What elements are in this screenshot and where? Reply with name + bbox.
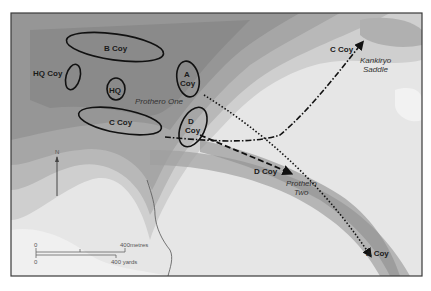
a-coy-label-2: Coy	[180, 79, 196, 88]
b-coy-label: B Coy	[104, 44, 128, 53]
c-coy-label: C Coy	[109, 118, 133, 127]
kankiryo-label-1: Kankiryo	[360, 56, 392, 65]
hq-coy-label: HQ Coy	[33, 69, 63, 78]
c-coy-arrow-label: C Coy	[330, 45, 354, 54]
svg-text:400metres: 400metres	[120, 242, 148, 248]
a-coy-label-1: A	[184, 70, 190, 79]
kankiryo-label-2: Saddle	[363, 65, 388, 74]
terrain-contours	[11, 13, 422, 276]
prothero-two-label-1: Prothero	[286, 179, 317, 188]
prothero-two-label-2: Two	[294, 188, 309, 197]
d-coy-arrow-label: D Coy	[254, 167, 278, 176]
svg-text:400 yards: 400 yards	[111, 259, 137, 265]
hq-label: HQ	[109, 86, 121, 95]
svg-text:N: N	[55, 149, 59, 155]
tactical-map: B Coy HQ Coy HQ A Coy C Coy D Coy Prothe…	[0, 0, 431, 291]
d-coy-label-2: Coy	[185, 126, 201, 135]
d-coy-label-1: D	[188, 117, 194, 126]
prothero-one-label: Prothero One	[135, 97, 184, 106]
a-coy-arrow-label: A Coy	[366, 249, 389, 258]
